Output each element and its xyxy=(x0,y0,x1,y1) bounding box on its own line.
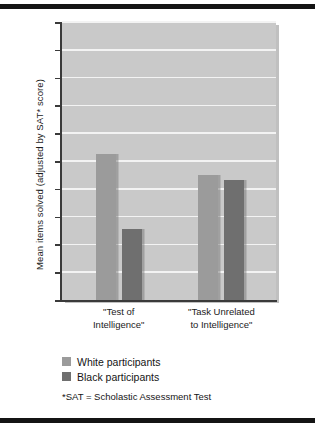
category-label-line: "Task Unrelated xyxy=(161,306,281,319)
bar-white-participants-group-1 xyxy=(96,154,116,300)
bar-black-participants-group-1 xyxy=(122,229,142,300)
y-axis-tick xyxy=(55,161,61,163)
legend-label: White participants xyxy=(77,356,160,368)
gridline xyxy=(62,132,276,134)
y-axis-tick xyxy=(55,22,61,24)
chart-figure: Mean items solved (adjusted by SAT* scor… xyxy=(0,9,315,418)
y-axis-tick xyxy=(55,105,61,107)
y-axis-tick xyxy=(55,272,61,274)
legend-swatch-icon xyxy=(62,357,71,366)
gridline xyxy=(62,49,276,51)
y-axis-tick xyxy=(55,133,61,135)
y-axis-tick xyxy=(55,50,61,52)
legend-item-white-participants: White participants xyxy=(62,354,160,369)
bar-white-participants-group-2 xyxy=(198,175,218,300)
legend: White participantsBlack participants xyxy=(62,354,160,384)
bottom-rule xyxy=(0,418,315,423)
y-axis-tick xyxy=(55,78,61,80)
legend-swatch-icon xyxy=(62,372,71,381)
y-axis-tick xyxy=(55,217,61,219)
gridline xyxy=(62,77,276,79)
y-axis-tick xyxy=(55,244,61,246)
x-axis-line xyxy=(60,300,277,302)
bar-black-participants-group-2 xyxy=(224,180,244,300)
category-label-2: "Task Unrelatedto Intelligence" xyxy=(161,306,281,331)
y-axis-title: Mean items solved (adjusted by SAT* scor… xyxy=(34,50,45,300)
category-label-line: to Intelligence" xyxy=(161,319,281,332)
y-axis-tick xyxy=(55,189,61,191)
footnote: *SAT = Scholastic Assessment Test xyxy=(62,391,211,402)
legend-item-black-participants: Black participants xyxy=(62,369,160,384)
gridline xyxy=(62,105,276,107)
gridline xyxy=(62,21,276,23)
y-axis-tick xyxy=(55,300,61,302)
legend-label: Black participants xyxy=(77,371,159,383)
gridline xyxy=(62,160,276,162)
